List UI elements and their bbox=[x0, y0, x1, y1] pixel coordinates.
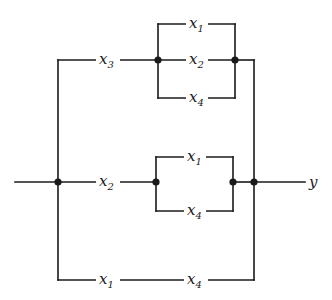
bottom-branch: x1 x4 bbox=[58, 270, 254, 290]
middle-branch: x2 x1 x4 bbox=[58, 147, 254, 221]
junction-node bbox=[231, 56, 238, 63]
junction-node bbox=[229, 178, 236, 185]
output-label: y bbox=[308, 173, 318, 191]
top-branch: x3 x1 x2 x4 bbox=[58, 14, 254, 108]
input-junction-node bbox=[54, 178, 61, 185]
junction-node bbox=[154, 56, 161, 63]
switching-network-diagram: x3 x1 x2 x4 x2 x1 x4 x1 x4 y bbox=[0, 0, 332, 300]
junction-node bbox=[152, 178, 159, 185]
output-junction-node bbox=[250, 178, 257, 185]
